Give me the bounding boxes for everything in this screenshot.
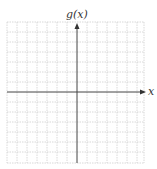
coordinate-plane [0,0,157,169]
y-axis-label: g(x) [66,9,88,20]
x-axis-arrow-icon [140,90,146,95]
y-axis-arrow-icon [75,23,80,29]
x-axis-label: x [148,86,154,97]
